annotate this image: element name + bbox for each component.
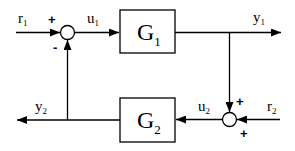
label-r1: r1 (18, 10, 28, 28)
label-y1: y1 (253, 9, 265, 27)
sum2-top-plus-sign: + (236, 94, 244, 109)
label-u1: u1 (87, 10, 99, 28)
summing-junction-2 (223, 113, 237, 127)
block-g1: G1 (120, 10, 175, 53)
label-r2: r2 (267, 98, 277, 116)
block-diagram: r1 + - u1 G1 y1 + + r2 u2 G2 y2 (0, 0, 295, 151)
summing-junction-1 (61, 26, 75, 40)
label-u2: u2 (198, 98, 210, 116)
sum1-minus-sign: - (53, 40, 57, 55)
sum2-right-plus-sign: + (240, 126, 248, 141)
sum1-plus-sign: + (48, 12, 56, 27)
label-y2: y2 (35, 98, 47, 116)
block-g2: G2 (120, 98, 175, 142)
